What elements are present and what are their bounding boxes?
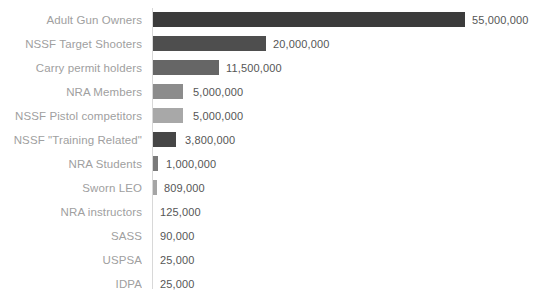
bar-chart: Adult Gun Owners 55,000,000 NSSF Target …	[0, 0, 536, 305]
category-label: NSSF Pistol competitors	[0, 104, 142, 128]
chart-row: Adult Gun Owners 55,000,000	[0, 8, 536, 32]
bar[interactable]	[153, 60, 219, 75]
chart-row: USPSA 25,000	[0, 248, 536, 272]
category-label: Sworn LEO	[0, 176, 142, 200]
bar-value-label: 3,800,000	[185, 128, 235, 152]
category-label: NSSF "Training Related"	[0, 128, 142, 152]
bar[interactable]	[153, 180, 157, 195]
chart-row: NRA instructors 125,000	[0, 200, 536, 224]
bar[interactable]	[153, 12, 465, 27]
bar-value-label: 90,000	[160, 224, 195, 248]
bar-value-label: 1,000,000	[166, 152, 216, 176]
bar-value-label: 55,000,000	[472, 8, 529, 32]
chart-row: NRA Members 5,000,000	[0, 80, 536, 104]
bar[interactable]	[153, 156, 158, 171]
bar[interactable]	[153, 84, 183, 99]
category-label: IDPA	[0, 272, 142, 296]
chart-row: NSSF Target Shooters 20,000,000	[0, 32, 536, 56]
chart-row: IDPA 25,000	[0, 272, 536, 296]
bar-value-label: 25,000	[160, 248, 195, 272]
bar[interactable]	[153, 108, 183, 123]
category-label: NRA Members	[0, 80, 142, 104]
bar-value-label: 5,000,000	[193, 80, 243, 104]
category-label: Carry permit holders	[0, 56, 142, 80]
chart-row: NSSF "Training Related" 3,800,000	[0, 128, 536, 152]
chart-row: SASS 90,000	[0, 224, 536, 248]
category-label: SASS	[0, 224, 142, 248]
bar[interactable]	[153, 36, 266, 51]
bar-value-label: 125,000	[160, 200, 201, 224]
category-label: NRA Students	[0, 152, 142, 176]
bar-value-label: 25,000	[160, 272, 195, 296]
category-label: Adult Gun Owners	[0, 8, 142, 32]
category-label: NRA instructors	[0, 200, 142, 224]
category-label: NSSF Target Shooters	[0, 32, 142, 56]
chart-row: Sworn LEO 809,000	[0, 176, 536, 200]
chart-row: Carry permit holders 11,500,000	[0, 56, 536, 80]
bar[interactable]	[153, 132, 176, 147]
chart-row: NRA Students 1,000,000	[0, 152, 536, 176]
bar-value-label: 20,000,000	[273, 32, 330, 56]
bar-value-label: 11,500,000	[226, 56, 282, 80]
chart-plot-area: Adult Gun Owners 55,000,000 NSSF Target …	[0, 0, 536, 305]
category-label: USPSA	[0, 248, 142, 272]
bar-value-label: 5,000,000	[193, 104, 243, 128]
bar-value-label: 809,000	[164, 176, 205, 200]
chart-row: NSSF Pistol competitors 5,000,000	[0, 104, 536, 128]
